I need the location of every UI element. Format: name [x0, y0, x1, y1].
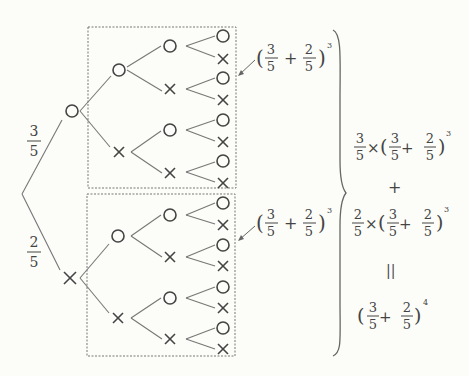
svg-text:5: 5	[389, 224, 397, 239]
subtree-box-top	[88, 27, 236, 188]
svg-text:5: 5	[305, 224, 313, 239]
svg-text:3: 3	[389, 207, 397, 222]
svg-text:3: 3	[327, 41, 332, 50]
svg-text:(: (	[380, 135, 387, 157]
svg-text:5: 5	[30, 143, 39, 159]
svg-text:5: 5	[403, 317, 411, 332]
svg-text:3: 3	[267, 42, 275, 57]
curly-brace	[333, 30, 346, 356]
svg-text:4: 4	[423, 298, 428, 307]
svg-text:×: ×	[365, 215, 378, 233]
svg-text:5: 5	[426, 148, 434, 163]
root-label-top: 3 5	[27, 123, 41, 159]
svg-text:+: +	[379, 308, 392, 326]
svg-text:5: 5	[356, 148, 364, 163]
svg-text:5: 5	[391, 148, 399, 163]
probability-tree-diagram: 3 5 2 5	[0, 0, 469, 376]
right-expression-term1: 3 5 × ( 3 5 + 2 5 ) 3	[354, 129, 451, 163]
node-circle-l1	[66, 105, 78, 117]
plus-sign: +	[388, 178, 401, 197]
subtree-annotation-bottom: ( 3 5 + 2 5 ) 3	[256, 206, 332, 239]
svg-text:3: 3	[369, 300, 377, 315]
svg-text:3: 3	[446, 129, 451, 138]
root-branches	[22, 120, 62, 270]
svg-text:3: 3	[391, 131, 399, 146]
svg-text:5: 5	[267, 59, 275, 74]
equals-sign: ||	[386, 262, 395, 279]
svg-text:+: +	[284, 49, 297, 68]
svg-text:2: 2	[30, 234, 39, 250]
svg-text:): )	[414, 304, 421, 326]
svg-text:3: 3	[267, 207, 275, 222]
svg-text:5: 5	[30, 254, 39, 270]
right-expression-term2: 2 5 × ( 3 5 + 2 5 ) 3	[352, 205, 449, 239]
svg-text:5: 5	[424, 224, 432, 239]
svg-text:+: +	[399, 215, 412, 233]
svg-text:3: 3	[444, 205, 449, 214]
svg-text:2: 2	[305, 207, 313, 222]
svg-text:2: 2	[305, 42, 313, 57]
right-expression-result: ( 3 5 + 2 5 ) 4	[357, 298, 428, 332]
svg-text:(: (	[256, 46, 264, 70]
svg-text:2: 2	[426, 131, 434, 146]
annotation-arrow-top	[238, 60, 255, 76]
svg-text:(: (	[256, 211, 264, 235]
annotation-arrow-bottom	[238, 226, 255, 241]
svg-text:): )	[438, 135, 445, 157]
svg-text:5: 5	[354, 224, 362, 239]
subtree-annotation-top: ( 3 5 + 2 5 ) 3	[256, 41, 332, 74]
subtree-box-bottom	[87, 194, 235, 356]
svg-text:5: 5	[305, 59, 313, 74]
svg-text:5: 5	[267, 224, 275, 239]
svg-text:+: +	[284, 214, 297, 233]
svg-text:3: 3	[356, 131, 364, 146]
svg-text:(: (	[357, 304, 364, 326]
svg-text:3: 3	[30, 123, 39, 139]
svg-text:): )	[436, 211, 443, 233]
svg-text:): )	[318, 211, 326, 235]
svg-text:2: 2	[403, 300, 411, 315]
root-label-bottom: 2 5	[27, 234, 41, 270]
svg-text:3: 3	[327, 206, 332, 215]
bottom-subtree	[80, 197, 229, 354]
svg-text:+: +	[401, 139, 414, 157]
svg-text:): )	[318, 46, 326, 70]
node-cross-l1	[64, 272, 76, 284]
svg-text:(: (	[378, 211, 385, 233]
svg-text:5: 5	[369, 317, 377, 332]
svg-text:×: ×	[367, 139, 380, 157]
svg-text:2: 2	[354, 207, 362, 222]
svg-text:2: 2	[424, 207, 432, 222]
top-subtree	[80, 30, 229, 188]
